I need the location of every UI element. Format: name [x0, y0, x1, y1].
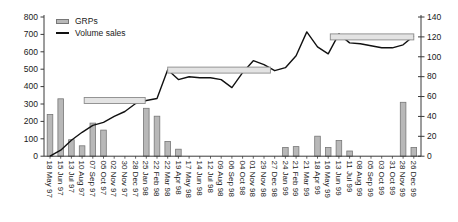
left-tick-label: 0: [33, 151, 38, 161]
period-bar: [168, 67, 271, 73]
legend-item-grps: GRPs: [56, 16, 126, 26]
x-tick-label: 25 Jan 98: [141, 161, 150, 197]
x-tick-label: 11 Jul 99: [345, 161, 354, 193]
x-tick-label: 01 Nov 98: [248, 161, 257, 198]
grp-bars: [47, 99, 416, 156]
x-tick-label: 15 Jun 97: [56, 161, 65, 197]
grp-bar: [325, 148, 331, 157]
grp-bar: [293, 147, 299, 157]
x-tick-label: 16 May 99: [323, 161, 332, 199]
left-tick-label: 400: [24, 81, 38, 91]
grp-bar: [347, 151, 353, 156]
right-tick-label: 60: [427, 91, 437, 101]
left-tick-label: 100: [24, 134, 38, 144]
right-tick-label: 0: [427, 151, 432, 161]
x-tick-label: 10 Aug 97: [77, 161, 86, 198]
right-tick-label: 140: [427, 12, 441, 22]
x-axis-labels: 18 May 9715 Jun 9713 Jul 9710 Aug 9707 S…: [45, 156, 418, 198]
x-tick-label: 09 Aug 98: [216, 161, 225, 198]
x-tick-label: 22 Mar 98: [163, 161, 172, 198]
left-tick-label: 600: [24, 47, 38, 57]
left-tick-label: 800: [24, 12, 38, 22]
x-tick-label: 26 Dec 99: [409, 161, 418, 198]
x-tick-label: 03 Oct 99: [377, 161, 386, 196]
period-bar: [330, 34, 414, 40]
x-tick-label: 24 Jan 99: [281, 161, 290, 197]
x-tick-label: 21 Feb 99: [291, 161, 300, 198]
x-tick-label: 08 Aug 99: [355, 161, 364, 198]
left-tick-label: 200: [24, 116, 38, 126]
x-tick-label: 27 Dec 98: [270, 161, 279, 198]
grp-bar: [79, 146, 85, 156]
x-tick-label: 13 Jun 99: [334, 161, 343, 197]
right-tick-label: 20: [427, 131, 437, 141]
x-tick-label: 28 Dec 97: [131, 161, 140, 198]
x-tick-label: 02 Nov 97: [109, 161, 118, 198]
x-tick-label: 31 Oct 99: [388, 161, 397, 196]
grp-bar: [411, 148, 417, 157]
right-tick-label: 120: [427, 32, 441, 42]
x-tick-label: 18 Apr 99: [313, 161, 322, 196]
grp-bar: [101, 130, 107, 156]
x-tick-label: 18 May 97: [45, 161, 54, 199]
grp-bar: [90, 123, 96, 156]
volume-line-swatch-icon: [56, 32, 69, 34]
grps-bar-swatch-icon: [56, 19, 69, 24]
grp-bar: [315, 136, 321, 156]
chart: 0100200300400500600700800020406080100120…: [0, 0, 458, 222]
legend: GRPs Volume sales: [56, 16, 126, 38]
legend-grps-label: GRPs: [75, 16, 98, 26]
grp-bar: [144, 108, 150, 156]
grp-bar: [176, 149, 182, 156]
x-tick-label: 04 Oct 98: [238, 161, 247, 196]
left-tick-label: 300: [24, 99, 38, 109]
x-tick-label: 06 Sep 98: [227, 161, 236, 198]
x-tick-label: 29 Nov 98: [259, 161, 268, 198]
left-tick-label: 500: [24, 64, 38, 74]
left-tick-label: 700: [24, 29, 38, 39]
grp-bar: [165, 141, 171, 156]
x-tick-label: 28 Nov 99: [398, 161, 407, 198]
grp-bar: [283, 148, 289, 157]
x-tick-label: 13 Jul 97: [67, 161, 76, 194]
period-bar: [84, 98, 145, 104]
left-axis-ticks: 0100200300400500600700800: [24, 12, 44, 161]
grp-bar: [154, 116, 160, 156]
grp-bar: [400, 102, 406, 156]
x-tick-label: 07 Sep 97: [88, 161, 97, 198]
grp-bar: [47, 114, 53, 156]
x-tick-label: 17 May 98: [184, 161, 193, 199]
x-tick-label: 12 Jul 98: [206, 161, 215, 194]
x-tick-label: 30 Nov 97: [120, 161, 129, 198]
x-tick-label: 19 Apr 98: [174, 161, 183, 196]
x-tick-label: 14 Jun 98: [195, 161, 204, 197]
x-tick-label: 22 Feb 98: [152, 161, 161, 198]
legend-item-volume-sales: Volume sales: [56, 28, 126, 38]
x-tick-label: 21 Mar 99: [302, 161, 311, 198]
right-tick-label: 80: [427, 71, 437, 81]
x-tick-label: 05 Sep 99: [366, 161, 375, 198]
grp-bar: [336, 141, 342, 157]
right-tick-label: 100: [427, 52, 441, 62]
x-tick-label: 05 Oct 97: [99, 161, 108, 196]
right-tick-label: 40: [427, 111, 437, 121]
right-axis-ticks: 020406080100120140: [418, 12, 441, 161]
legend-volume-sales-label: Volume sales: [75, 28, 126, 38]
